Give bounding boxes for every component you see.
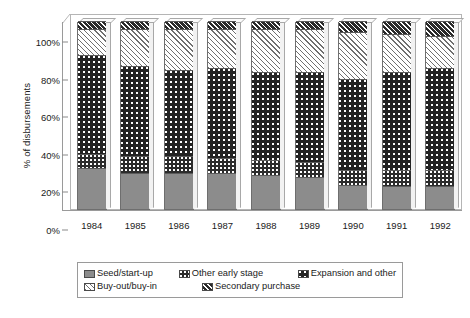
- bar-segment[interactable]: [208, 173, 236, 209]
- y-tick-label: 100%: [36, 37, 60, 48]
- bar-segment[interactable]: [78, 55, 106, 155]
- bar-segment[interactable]: [121, 66, 149, 156]
- y-tick-label: 60%: [41, 112, 60, 123]
- bar-segment[interactable]: [339, 79, 367, 169]
- bar-segment[interactable]: [426, 186, 454, 209]
- bar-segment[interactable]: [252, 72, 280, 160]
- x-tick-label: 1986: [168, 220, 189, 231]
- bar-segment[interactable]: [296, 162, 324, 177]
- bar-stack[interactable]: [425, 22, 455, 210]
- bar-segment[interactable]: [252, 29, 280, 72]
- bar-group: [295, 22, 325, 210]
- bar-side-face: [324, 22, 329, 209]
- legend-item[interactable]: Expansion and other: [298, 268, 396, 279]
- bar-stack[interactable]: [77, 22, 107, 210]
- bar-stack[interactable]: [207, 22, 237, 210]
- bar-side-face: [236, 22, 241, 209]
- bar-group: [77, 22, 107, 210]
- legend-label: Buy-out/buy-in: [97, 281, 157, 292]
- bar-segment[interactable]: [426, 68, 454, 170]
- bar-segment[interactable]: [78, 154, 106, 167]
- bar-segment[interactable]: [383, 72, 411, 170]
- bar-group: [207, 22, 237, 210]
- bar-stack[interactable]: [120, 22, 150, 210]
- bar-segment[interactable]: [165, 70, 193, 156]
- bar-segment[interactable]: [121, 156, 149, 173]
- x-tick-label: 1989: [299, 220, 320, 231]
- bar-segment[interactable]: [339, 185, 367, 209]
- bar-segment[interactable]: [165, 156, 193, 173]
- legend-row: Buy-out/buy-inSecondary purchase: [84, 280, 396, 293]
- x-tick-label: 1987: [212, 220, 233, 231]
- bar-side-face: [280, 22, 285, 209]
- legend-label: Other early stage: [192, 268, 263, 279]
- bar-segment[interactable]: [383, 170, 411, 187]
- bar-segment[interactable]: [383, 186, 411, 209]
- bars-layer: [70, 22, 462, 210]
- bar-segment[interactable]: [252, 160, 280, 175]
- bar-segment[interactable]: [383, 21, 411, 34]
- y-axis-ticks: 0%20%40%60%80%100%: [22, 32, 60, 210]
- bar-segment[interactable]: [339, 32, 367, 79]
- bar-segment[interactable]: [426, 36, 454, 68]
- bar-segment[interactable]: [296, 29, 324, 72]
- bar-segment[interactable]: [78, 29, 106, 55]
- legend-swatch-icon: [202, 283, 213, 291]
- x-tick-label: 1991: [386, 220, 407, 231]
- bar-segment[interactable]: [383, 34, 411, 72]
- x-axis-labels: 198419851986198719881989199019911992: [70, 214, 462, 234]
- bar-segment[interactable]: [165, 173, 193, 209]
- bar-stack[interactable]: [164, 22, 194, 210]
- bar-segment[interactable]: [208, 158, 236, 173]
- bar-segment[interactable]: [252, 21, 280, 29]
- bar-segment[interactable]: [165, 21, 193, 29]
- bar-segment[interactable]: [208, 68, 236, 158]
- legend-label: Expansion and other: [311, 268, 396, 279]
- bar-segment[interactable]: [78, 21, 106, 29]
- x-axis-line: [62, 210, 462, 211]
- bar-stack[interactable]: [382, 22, 412, 210]
- y-tick-label: 40%: [41, 149, 60, 160]
- legend-item[interactable]: Secondary purchase: [202, 281, 300, 292]
- bar-side-face: [411, 22, 416, 209]
- bar-segment[interactable]: [208, 21, 236, 29]
- bar-segment[interactable]: [121, 29, 149, 67]
- legend-swatch-icon: [298, 270, 309, 278]
- x-tick-label: 1990: [343, 220, 364, 231]
- x-tick-label: 1992: [430, 220, 451, 231]
- bar-side-face: [454, 22, 459, 209]
- bar-group: [425, 22, 455, 210]
- bar-segment[interactable]: [165, 29, 193, 70]
- legend-swatch-icon: [84, 283, 95, 291]
- bar-segment[interactable]: [296, 21, 324, 29]
- bar-group: [120, 22, 150, 210]
- bar-segment[interactable]: [339, 170, 367, 185]
- legend-label: Seed/start-up: [97, 268, 153, 279]
- bar-stack[interactable]: [338, 22, 368, 210]
- bar-segment[interactable]: [339, 21, 367, 32]
- bar-segment[interactable]: [426, 21, 454, 36]
- x-tick-label: 1984: [81, 220, 102, 231]
- bar-group: [382, 22, 412, 210]
- legend-item[interactable]: Seed/start-up: [84, 268, 179, 279]
- legend-label: Secondary purchase: [215, 281, 300, 292]
- bar-segment[interactable]: [296, 72, 324, 162]
- bar-group: [164, 22, 194, 210]
- bar-group: [251, 22, 281, 210]
- legend-item[interactable]: Other early stage: [179, 268, 298, 279]
- bar-segment[interactable]: [208, 29, 236, 68]
- bar-segment[interactable]: [252, 175, 280, 209]
- y-tick-mark: [62, 230, 68, 231]
- legend-item[interactable]: Buy-out/buy-in: [84, 281, 202, 292]
- bar-segment[interactable]: [121, 21, 149, 29]
- bar-segment[interactable]: [78, 168, 106, 209]
- bar-stack[interactable]: [251, 22, 281, 210]
- y-tick-mark: [62, 192, 68, 193]
- y-tick-label: 20%: [41, 187, 60, 198]
- bar-segment[interactable]: [121, 173, 149, 209]
- bar-stack[interactable]: [295, 22, 325, 210]
- y-tick-mark: [62, 117, 68, 118]
- bar-segment[interactable]: [296, 177, 324, 209]
- bar-side-face: [106, 22, 111, 209]
- bar-segment[interactable]: [426, 170, 454, 187]
